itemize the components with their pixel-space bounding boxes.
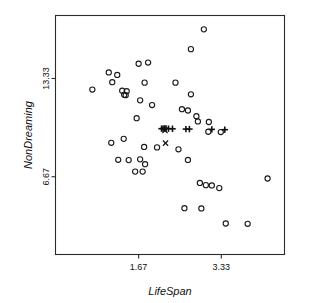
data-point-circle bbox=[154, 145, 159, 150]
data-point-circle bbox=[138, 98, 143, 103]
data-point-circle bbox=[110, 80, 115, 85]
data-point-circle bbox=[90, 87, 95, 92]
data-point-circle bbox=[185, 157, 190, 162]
x-axis-ticks bbox=[139, 255, 222, 259]
y-axis-ticks bbox=[52, 78, 56, 176]
plot-frame bbox=[56, 16, 285, 255]
data-point-circle bbox=[140, 169, 145, 174]
data-point-circle bbox=[136, 61, 141, 66]
data-point-circle bbox=[223, 221, 228, 226]
data-point-circle bbox=[209, 183, 214, 188]
data-point-circle bbox=[245, 221, 250, 226]
data-point-circle bbox=[134, 116, 139, 121]
data-point-circle bbox=[199, 206, 204, 211]
x-axis-title: LifeSpan bbox=[148, 285, 191, 297]
data-point-circle bbox=[149, 102, 154, 107]
data-point-circle bbox=[201, 27, 206, 32]
y-axis-title: NonDreaming bbox=[22, 100, 34, 169]
data-point-circle bbox=[126, 157, 131, 162]
data-point-plus bbox=[222, 126, 228, 132]
scatter-plot-figure: 6.6713.33 1.673.33 NonDreaming LifeSpan bbox=[0, 0, 310, 303]
data-point-circle bbox=[217, 186, 222, 191]
data-point-circle bbox=[133, 169, 138, 174]
data-point-circle bbox=[138, 157, 143, 162]
data-point-circle bbox=[142, 80, 147, 85]
data-point-circle bbox=[182, 206, 187, 211]
data-point-plus bbox=[186, 126, 192, 132]
data-point-circle bbox=[179, 107, 184, 112]
data-point-cross bbox=[163, 141, 168, 146]
x-tick-label: 1.67 bbox=[130, 262, 148, 272]
x-axis-tick-labels: 1.673.33 bbox=[130, 262, 230, 272]
data-point-circle bbox=[195, 119, 200, 124]
data-point-circle bbox=[188, 92, 193, 97]
data-point-circle bbox=[176, 147, 181, 152]
x-tick-label: 3.33 bbox=[213, 262, 231, 272]
data-point-circle bbox=[116, 157, 121, 162]
data-point-circle bbox=[185, 108, 190, 113]
data-point-circle bbox=[143, 162, 148, 167]
data-point-circle bbox=[115, 72, 120, 77]
data-point-circle bbox=[173, 80, 178, 85]
data-point-circle bbox=[106, 70, 111, 75]
data-point-circle bbox=[109, 140, 114, 145]
data-point-plus bbox=[169, 126, 175, 132]
data-point-circle bbox=[188, 47, 193, 52]
plot-canvas: 6.6713.33 1.673.33 NonDreaming LifeSpan bbox=[0, 0, 310, 303]
y-axis-tick-labels: 6.6713.33 bbox=[41, 67, 51, 185]
data-point-group bbox=[90, 27, 270, 227]
y-tick-label: 13.33 bbox=[41, 67, 51, 90]
data-point-circle bbox=[265, 176, 270, 181]
data-point-circle bbox=[121, 136, 126, 141]
y-tick-label: 6.67 bbox=[41, 168, 51, 186]
data-point-plus bbox=[209, 126, 215, 132]
data-point-circle bbox=[206, 119, 211, 124]
data-point-circle bbox=[203, 183, 208, 188]
data-point-circle bbox=[142, 144, 147, 149]
data-point-circle bbox=[194, 114, 199, 119]
data-point-circle bbox=[145, 60, 150, 65]
data-point-circle bbox=[197, 180, 202, 185]
